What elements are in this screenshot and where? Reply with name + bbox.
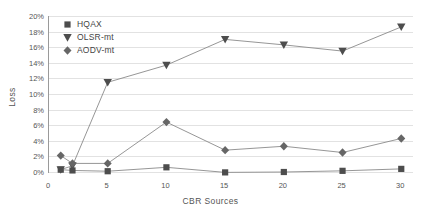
diamond-marker-icon: [162, 118, 170, 126]
diamond-marker-icon: [397, 134, 405, 142]
legend-item-label: AODV-mt: [77, 44, 114, 57]
x-tick-label: 5: [92, 181, 122, 190]
diamond-marker-icon: [64, 46, 72, 54]
legend-item-hqax[interactable]: HQAX: [62, 18, 114, 31]
diamond-marker-icon: [280, 142, 288, 150]
square-marker-icon: [339, 168, 345, 174]
y-tick-label: 8%: [20, 105, 44, 114]
square-marker-icon: [163, 164, 169, 170]
square-marker-icon: [105, 168, 111, 174]
y-axis-tick-labels: 0%2%4%6%8%10%12%14%16%18%20%: [16, 0, 44, 220]
triangle-down-marker-icon: [62, 32, 73, 43]
y-tick-label: 14%: [20, 58, 44, 67]
square-marker-icon: [222, 169, 228, 175]
series-line: [61, 167, 402, 172]
y-tick-label: 12%: [20, 74, 44, 83]
y-tick-label: 0%: [20, 168, 44, 177]
triangle-down-marker-icon: [104, 79, 112, 87]
x-tick-label: 10: [150, 181, 180, 190]
y-tick-label: 18%: [20, 27, 44, 36]
square-marker-icon: [398, 166, 404, 172]
diamond-marker-icon: [221, 146, 229, 154]
y-tick-label: 20%: [20, 12, 44, 21]
legend-item-olsr-mt[interactable]: OLSR-mt: [62, 31, 114, 44]
diamond-marker-icon: [339, 148, 347, 156]
series-line: [61, 122, 402, 163]
diamond-marker-icon: [57, 151, 65, 159]
y-tick-label: 6%: [20, 121, 44, 130]
chart-legend: HQAXOLSR-mtAODV-mt: [62, 18, 114, 57]
x-axis-title: CBR Sources: [0, 196, 421, 206]
triangle-down-marker-icon: [338, 48, 346, 56]
diamond-marker-icon: [104, 159, 112, 167]
x-tick-label: 20: [268, 181, 298, 190]
legend-item-aodv-mt[interactable]: AODV-mt: [62, 44, 114, 57]
triangle-down-marker-icon: [63, 34, 71, 42]
series-hqax: [58, 164, 405, 175]
loss-vs-cbr-sources-chart: Loss 0%2%4%6%8%10%12%14%16%18%20% 051015…: [0, 0, 421, 220]
legend-item-label: HQAX: [77, 18, 102, 31]
diamond-marker-icon: [62, 45, 73, 56]
square-marker-icon: [64, 21, 70, 27]
series-aodv-mt: [57, 118, 406, 168]
y-tick-label: 4%: [20, 136, 44, 145]
square-marker-icon: [281, 169, 287, 175]
triangle-down-marker-icon: [397, 24, 405, 32]
x-tick-label: 15: [209, 181, 239, 190]
legend-item-label: OLSR-mt: [77, 31, 114, 44]
square-marker-icon: [62, 19, 73, 30]
x-tick-label: 30: [385, 181, 415, 190]
y-tick-label: 10%: [20, 90, 44, 99]
y-tick-label: 16%: [20, 43, 44, 52]
y-tick-label: 2%: [20, 152, 44, 161]
x-tick-label: 25: [327, 181, 357, 190]
